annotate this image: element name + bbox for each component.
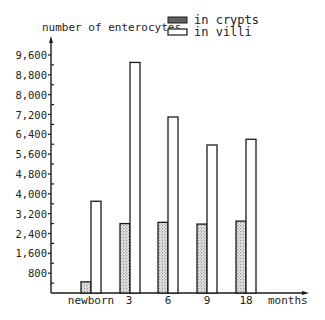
x-tick-6: 6	[165, 294, 172, 307]
y-axis-arrow-icon	[49, 36, 53, 43]
bar-crypts-6	[158, 222, 168, 293]
y-tick-label: 9,600	[15, 49, 47, 61]
bar-crypts-newborn	[81, 282, 91, 293]
bar-crypts-18	[236, 221, 246, 293]
legend-swatch-villi	[168, 29, 187, 35]
x-tick-18: 18	[239, 294, 252, 307]
y-axis-title: number of enterocytes	[42, 21, 181, 34]
y-tick-label: 8,800	[15, 69, 47, 81]
bar-villi-18	[246, 139, 256, 293]
legend: in crypts in villi	[168, 13, 259, 39]
bar-crypts-9	[197, 224, 207, 293]
legend-swatch-crypts	[168, 17, 187, 23]
y-tick-label: 2,400	[15, 228, 47, 240]
y-tick-label: 8,000	[15, 89, 47, 101]
x-tick-9: 9	[204, 294, 211, 307]
x-tick-labels: newborn 3 6 9 18 months	[68, 294, 308, 307]
bar-villi-9	[207, 145, 217, 293]
y-tick-label: 800	[28, 267, 47, 279]
y-tick-label: 6,400	[15, 128, 47, 140]
bar-crypts-3	[120, 224, 130, 293]
y-tick-label: 7,200	[15, 109, 47, 121]
y-tick-label: 1,600	[15, 247, 47, 259]
x-tick-3: 3	[126, 294, 133, 307]
bar-villi-newborn	[91, 201, 101, 293]
x-tick-newborn: newborn	[68, 294, 114, 307]
bars	[81, 62, 256, 293]
bar-villi-3	[130, 62, 140, 293]
y-tick-label: 4,000	[15, 188, 47, 200]
bar-chart: number of enterocytes in crypts in villi…	[0, 0, 325, 320]
y-tick-label: 3,200	[15, 208, 47, 220]
y-tick-label: 5,600	[15, 148, 47, 160]
bar-villi-6	[168, 117, 178, 293]
y-tick-label: 4,800	[15, 168, 47, 180]
x-axis-title: months	[268, 294, 308, 307]
legend-label-villi: in villi	[194, 25, 252, 39]
y-axis: 8001,6002,4003,2004,0004,8005,6006,4007,…	[15, 36, 54, 293]
